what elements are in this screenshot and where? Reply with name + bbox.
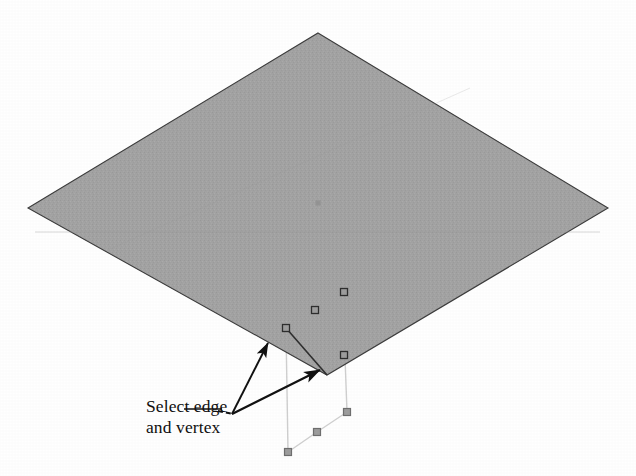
- figure-container: Select edge and vertex: [0, 0, 636, 476]
- surface-corner-vertex[interactable]: [341, 352, 348, 359]
- technical-illustration-canvas: [0, 0, 636, 476]
- plane-center-mark: [316, 201, 321, 206]
- lower-vertex-left[interactable]: [285, 449, 292, 456]
- lower-vertex-right[interactable]: [344, 409, 351, 416]
- surface-vertex-3[interactable]: [283, 325, 290, 332]
- surface-vertex-1[interactable]: [341, 289, 348, 296]
- annotation-label-line-1: Select edge: [146, 396, 227, 417]
- surface-vertex-2[interactable]: [312, 307, 319, 314]
- lower-vertex-mid[interactable]: [314, 429, 321, 436]
- annotation-label-line-2: and vertex: [146, 417, 220, 438]
